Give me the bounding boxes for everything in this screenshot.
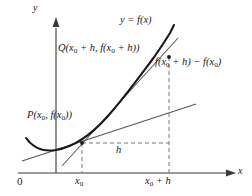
y-axis-label: y xyxy=(33,3,37,13)
curve-equation-label: y = f(x) xyxy=(120,15,152,26)
point-p-mid: , f(x xyxy=(45,109,61,120)
x-tick-label-x0-plus-h: x0 + h xyxy=(145,176,171,188)
rise-label: f(x0 + h) − f(x0) xyxy=(155,57,221,69)
x-tick-x0h-tail: + h xyxy=(153,175,171,186)
rise-mid: + h) − f(x xyxy=(170,56,215,67)
x-axis-arrowhead xyxy=(226,170,236,177)
point-q-label: Q(x0 + h, f(x0 + h)) xyxy=(58,43,139,55)
rise-close: ) xyxy=(218,56,222,67)
point-q-open: Q(x xyxy=(58,42,74,53)
point-p-close: )) xyxy=(65,109,72,120)
point-p-open: P(x xyxy=(27,109,42,120)
point-q-close: + h)) xyxy=(115,42,140,53)
x-tick-label-x0: x0 xyxy=(75,176,83,188)
point-p-marker xyxy=(80,141,84,145)
x-axis-label: x xyxy=(238,166,242,176)
calculus-secant-tangent-figure: y x 0 y = f(x) Q(x0 + h, f(x0 + h)) P(x0… xyxy=(0,0,252,196)
origin-label: 0 xyxy=(17,176,23,187)
figure-canvas xyxy=(0,0,252,196)
point-p-label: P(x0, f(x0)) xyxy=(27,110,72,122)
y-axis-arrowhead xyxy=(53,17,60,27)
x-tick-x0-sub: 0 xyxy=(80,180,84,188)
point-q-mid: + h, f(x xyxy=(77,42,111,53)
run-label-h: h xyxy=(116,145,121,156)
rise-open: f(x xyxy=(155,56,166,67)
